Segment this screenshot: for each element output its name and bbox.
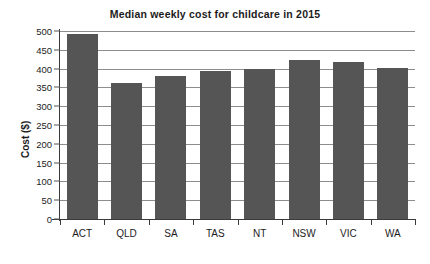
bar <box>333 62 364 219</box>
y-axis-tick-mark <box>54 200 60 201</box>
x-axis-tick-label: NT <box>253 228 266 239</box>
y-axis-tick-mark <box>54 49 60 50</box>
y-axis-tick-mark <box>54 87 60 88</box>
bar <box>377 68 408 219</box>
plot-area <box>60 31 415 219</box>
x-axis-tick-label: TAS <box>206 228 225 239</box>
y-axis-tick-mark <box>54 31 60 32</box>
y-axis-tick-mark <box>54 125 60 126</box>
x-axis-tick-mark <box>282 220 283 225</box>
x-axis-tick-mark <box>238 220 239 225</box>
bar <box>111 83 142 219</box>
bar <box>67 34 98 219</box>
y-axis-tick-label: 350 <box>22 82 52 93</box>
y-axis-tick-mark <box>54 68 60 69</box>
y-axis-tick-label: 300 <box>22 101 52 112</box>
y-axis-tick-mark <box>54 181 60 182</box>
x-axis-tick-label: WA <box>385 228 401 239</box>
gridline <box>60 50 415 51</box>
y-axis-tick-mark <box>54 143 60 144</box>
x-axis-line <box>52 219 416 220</box>
x-axis-tick-mark <box>104 220 105 225</box>
y-axis-tick-label: 100 <box>22 176 52 187</box>
x-axis-tick-mark <box>371 220 372 225</box>
y-axis-tick-label: 150 <box>22 157 52 168</box>
bar <box>244 69 275 219</box>
gridline <box>60 31 415 32</box>
bar <box>155 76 186 219</box>
chart-title: Median weekly cost for childcare in 2015 <box>0 8 430 20</box>
y-axis-tick-label: 0 <box>22 214 52 225</box>
bar <box>200 71 231 219</box>
x-axis-tick-mark <box>415 220 416 225</box>
x-axis-tick-mark <box>193 220 194 225</box>
y-axis-title: Cost ($) <box>6 82 17 96</box>
y-axis-tick-label: 50 <box>22 195 52 206</box>
x-axis-tick-label: SA <box>164 228 177 239</box>
y-axis-tick-label: 450 <box>22 44 52 55</box>
y-axis-tick-label: 500 <box>22 26 52 37</box>
y-axis-tick-label: 250 <box>22 120 52 131</box>
y-axis-tick-label: 400 <box>22 63 52 74</box>
y-axis-tick-mark <box>54 106 60 107</box>
y-axis-tick-mark <box>54 162 60 163</box>
x-axis-tick-mark <box>60 220 61 225</box>
bar <box>289 60 320 219</box>
x-axis-tick-mark <box>149 220 150 225</box>
bar-chart: Median weekly cost for childcare in 2015… <box>0 0 430 264</box>
x-axis-tick-label: ACT <box>72 228 92 239</box>
x-axis-tick-label: VIC <box>340 228 357 239</box>
x-axis-tick-label: QLD <box>116 228 137 239</box>
y-axis-tick-labels: 050100150200250300350400450500 <box>22 31 52 219</box>
y-axis-tick-mark <box>54 219 60 220</box>
x-axis-tick-mark <box>326 220 327 225</box>
y-axis-tick-label: 200 <box>22 138 52 149</box>
x-axis-tick-label: NSW <box>292 228 315 239</box>
